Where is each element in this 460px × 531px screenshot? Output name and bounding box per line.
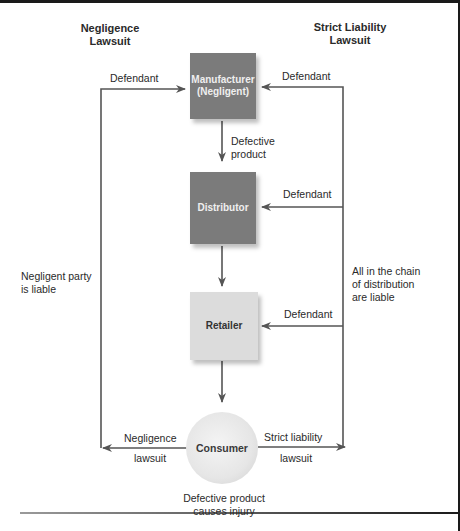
heading-line: Strict Liability xyxy=(295,21,405,34)
distributor-label: Distributor xyxy=(197,202,248,214)
edge-line: product xyxy=(231,148,275,161)
all-in-chain-annotation: All in the chain of distribution are lia… xyxy=(352,265,420,304)
manufacturer-defendant-label: Defendant xyxy=(282,70,330,83)
annotation-line: All in the chain xyxy=(352,265,420,278)
annotation-line: Defective product xyxy=(172,492,276,505)
negligent-party-annotation: Negligent party is liable xyxy=(21,270,92,296)
consumer-label: Consumer xyxy=(196,442,248,454)
retailer-defendant-label: Defendant xyxy=(284,308,332,321)
distributor-node: Distributor xyxy=(190,172,256,244)
distributor-defendant-label: Defendant xyxy=(283,188,331,201)
strict-liability-lawsuit-label: Strict liability xyxy=(264,431,322,444)
edge-line: Defective xyxy=(231,135,275,148)
retailer-label: Retailer xyxy=(206,320,243,332)
left-defendant-label: Defendant xyxy=(110,72,158,85)
negligence-lawsuit-label: Negligence xyxy=(124,432,177,445)
annotation-line: causes injury xyxy=(172,505,276,518)
negligence-lawsuit-label-2: lawsuit xyxy=(134,452,166,465)
negligence-lawsuit-heading: Negligence Lawsuit xyxy=(70,22,150,48)
strict-liability-lawsuit-label-2: lawsuit xyxy=(280,452,312,465)
consumer-node: Consumer xyxy=(186,412,258,484)
annotation-line: is liable xyxy=(21,283,92,296)
annotation-line: of distribution xyxy=(352,278,420,291)
injury-annotation: Defective product causes injury xyxy=(172,492,276,518)
heading-line: Lawsuit xyxy=(70,35,150,48)
manufacturer-label: Manufacturer xyxy=(191,74,254,86)
retailer-node: Retailer xyxy=(190,292,258,360)
strict-liability-heading: Strict Liability Lawsuit xyxy=(295,21,405,47)
annotation-line: Negligent party xyxy=(21,270,92,283)
manufacturer-sublabel: (Negligent) xyxy=(191,86,254,98)
annotation-line: are liable xyxy=(352,291,420,304)
heading-line: Lawsuit xyxy=(295,34,405,47)
manufacturer-node: Manufacturer (Negligent) xyxy=(190,53,256,119)
diagram-frame: Negligence Lawsuit Strict Liability Laws… xyxy=(0,0,460,531)
heading-line: Negligence xyxy=(70,22,150,35)
defective-product-label: Defective product xyxy=(231,135,275,161)
